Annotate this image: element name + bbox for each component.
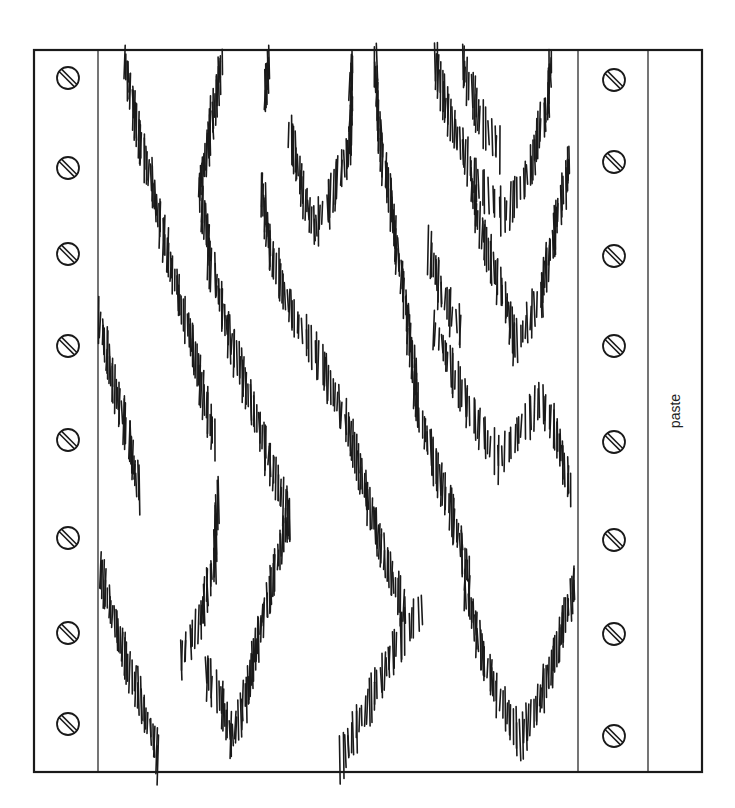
- grain-stroke: [513, 181, 514, 222]
- grain-stroke: [238, 700, 239, 740]
- grain-stroke: [466, 57, 467, 105]
- grain-stroke: [476, 204, 477, 227]
- grain-stroke: [436, 260, 437, 291]
- grain-stroke: [146, 152, 147, 184]
- grain-stroke: [465, 140, 466, 174]
- grain-stroke: [182, 641, 183, 670]
- grain-stroke: [487, 659, 488, 678]
- grain-stroke: [537, 684, 538, 725]
- grain-stroke: [99, 312, 100, 337]
- grain-stroke: [274, 555, 275, 575]
- grain-stroke: [352, 51, 353, 73]
- grain-stroke: [482, 221, 483, 249]
- grain-stroke: [515, 425, 516, 453]
- grain-stroke: [566, 168, 567, 192]
- grain-stroke: [526, 165, 527, 184]
- grain-stroke: [475, 400, 476, 441]
- grain-stroke: [374, 668, 375, 710]
- grain-stroke: [500, 689, 501, 710]
- grain-stroke: [450, 288, 451, 337]
- grain-stroke: [525, 161, 526, 197]
- screw-icon: [57, 713, 79, 735]
- grain-stroke: [431, 243, 432, 277]
- grain-stroke: [467, 137, 468, 186]
- screw-icon: [57, 429, 79, 451]
- grain-stroke: [150, 164, 151, 191]
- grain-stroke: [377, 525, 378, 548]
- grain-stroke: [517, 319, 518, 363]
- grain-stroke: [496, 673, 497, 717]
- grain-stroke: [502, 446, 503, 465]
- screw-icon: [603, 335, 625, 357]
- grain-stroke: [250, 385, 251, 425]
- grain-stroke: [343, 733, 344, 779]
- grain-stroke: [211, 677, 212, 698]
- grain-stroke: [189, 313, 190, 347]
- grain-stroke: [275, 457, 276, 500]
- grain-stroke: [125, 418, 126, 444]
- grain-stroke: [230, 315, 231, 364]
- grain-stroke: [316, 215, 317, 236]
- grain-stroke: [198, 605, 199, 644]
- grain-stroke: [545, 98, 546, 122]
- screw-icon: [603, 529, 625, 551]
- screw-icon: [57, 622, 79, 644]
- grain-stroke: [311, 326, 312, 370]
- grain-stroke: [240, 357, 241, 378]
- grain-stroke: [479, 106, 480, 134]
- grain-stroke: [498, 436, 499, 485]
- grain-stroke: [309, 198, 310, 233]
- grain-stroke: [450, 99, 451, 140]
- grain-stroke: [504, 431, 505, 471]
- grain-stroke: [371, 673, 372, 723]
- grain-stroke: [330, 173, 331, 217]
- grain-stroke: [549, 657, 550, 687]
- grain-stroke: [337, 392, 338, 410]
- screw-icon: [57, 67, 79, 89]
- grain-stroke: [246, 677, 247, 722]
- grain-stroke: [242, 360, 243, 402]
- grain-stroke: [254, 396, 255, 432]
- grain-stroke: [530, 396, 531, 429]
- grain-stroke: [545, 395, 546, 431]
- grain-stroke: [352, 712, 353, 755]
- grain-stroke: [266, 86, 267, 105]
- grain-stroke: [427, 432, 428, 454]
- grain-stroke: [465, 581, 466, 609]
- grain-stroke: [345, 735, 346, 768]
- grain-stroke: [179, 295, 180, 316]
- grain-stroke: [276, 253, 277, 284]
- grain-stroke: [466, 386, 467, 428]
- grain-stroke: [493, 186, 494, 213]
- grain-stroke: [305, 190, 306, 220]
- grain-stroke: [530, 700, 531, 736]
- grain-stroke: [393, 572, 394, 593]
- grain-stroke: [135, 103, 136, 139]
- grain-stroke: [154, 735, 155, 757]
- grain-stroke: [216, 275, 217, 296]
- grain-stroke: [389, 646, 390, 669]
- grain-stroke: [460, 127, 461, 159]
- grain-stroke: [534, 386, 535, 432]
- grain-stroke: [136, 473, 137, 496]
- grain-stroke: [410, 323, 411, 367]
- grain-stroke: [365, 696, 366, 726]
- grain-stroke: [488, 238, 489, 270]
- grain-stroke: [207, 656, 208, 701]
- grain-stroke: [444, 288, 445, 309]
- grain-stroke: [563, 598, 564, 643]
- grain-stroke: [250, 654, 251, 697]
- grain-stroke: [467, 560, 468, 579]
- grain-stroke: [492, 119, 493, 156]
- grain-stroke: [510, 182, 511, 231]
- grain-stroke: [231, 334, 232, 354]
- grain-stroke: [457, 127, 458, 149]
- grain-stroke: [417, 393, 418, 427]
- grain-stroke: [438, 260, 439, 309]
- paste-flap: paste: [648, 50, 702, 772]
- grain-stroke: [133, 91, 134, 131]
- grain-stroke: [360, 467, 361, 494]
- grain-stroke: [190, 324, 191, 355]
- grain-stroke: [478, 170, 479, 199]
- grain-stroke: [106, 350, 107, 371]
